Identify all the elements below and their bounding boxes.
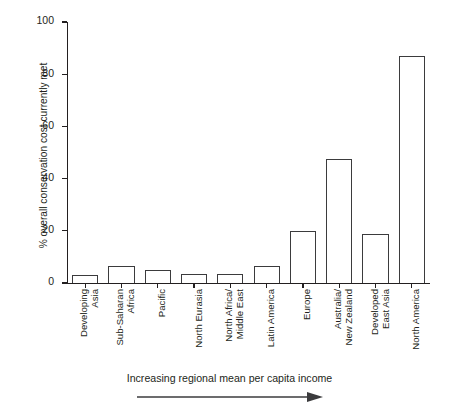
bar bbox=[254, 266, 280, 283]
x-axis-tick bbox=[302, 283, 303, 288]
x-axis-category-label: Australia/New Zealand bbox=[321, 289, 357, 371]
y-axis-tick: 100 bbox=[62, 21, 67, 22]
x-axis-category-label: DevelopedEast Asia bbox=[357, 289, 393, 371]
x-axis-category-line: North America bbox=[411, 289, 422, 369]
bar bbox=[362, 234, 388, 283]
x-axis-tick bbox=[85, 283, 86, 288]
x-axis-category-label: Europe bbox=[285, 289, 321, 371]
arrow-right-icon bbox=[135, 390, 325, 404]
y-axis-tick-label: 20 bbox=[42, 223, 54, 235]
bar bbox=[145, 270, 171, 283]
x-axis-category-label: North America bbox=[394, 289, 430, 371]
x-axis-category-line: North Eurasia bbox=[194, 289, 205, 369]
x-axis-category-label-text: North Africa/Middle East bbox=[224, 289, 245, 369]
x-axis-category-label-text: Australia/New Zealand bbox=[333, 289, 354, 369]
bar bbox=[290, 231, 316, 283]
x-axis-category-label-text: DevelopedEast Asia bbox=[370, 289, 391, 369]
x-axis-category-line: Africa bbox=[126, 289, 137, 369]
bar bbox=[326, 159, 352, 283]
x-axis-category-label-text: North Eurasia bbox=[194, 289, 205, 369]
bar bbox=[72, 275, 98, 283]
bar bbox=[217, 274, 243, 283]
y-axis-line bbox=[67, 22, 68, 284]
x-axis-tick bbox=[157, 283, 158, 288]
y-axis-tick: 20 bbox=[62, 230, 67, 231]
x-axis-category-label: Sub-SaharanAfrica bbox=[103, 289, 139, 371]
x-axis-category-label: DevelopingAsia bbox=[67, 289, 103, 371]
y-axis-tick: 0 bbox=[62, 282, 67, 283]
x-axis-category-line: New Zealand bbox=[344, 289, 355, 369]
y-axis-tick-label: 100 bbox=[36, 14, 54, 26]
y-axis-tick: 80 bbox=[62, 74, 67, 75]
x-axis-category-line: Europe bbox=[302, 289, 313, 369]
x-axis-category-labels: DevelopingAsiaSub-SaharanAfricaPacificNo… bbox=[67, 289, 430, 371]
x-axis-category-label-text: North America bbox=[411, 289, 422, 369]
x-axis-tick bbox=[230, 283, 231, 288]
x-axis-tick bbox=[193, 283, 194, 288]
bar bbox=[181, 274, 207, 283]
x-axis-category-line: Developed bbox=[370, 289, 381, 369]
x-axis-tick bbox=[411, 283, 412, 288]
x-axis-category-label: North Eurasia bbox=[176, 289, 212, 371]
x-axis-category-line: Asia bbox=[90, 289, 101, 369]
bar bbox=[399, 56, 425, 283]
x-axis-category-label: North Africa/Middle East bbox=[212, 289, 248, 371]
x-axis-category-line: Middle East bbox=[235, 289, 246, 369]
x-axis-tick bbox=[375, 283, 376, 288]
bar-chart-figure: % overall conservation cost currently me… bbox=[0, 0, 459, 416]
y-axis-tick-label: 80 bbox=[42, 67, 54, 79]
y-axis-tick-label: 60 bbox=[42, 119, 54, 131]
x-axis-category-label-text: Sub-SaharanAfrica bbox=[115, 289, 136, 369]
x-axis-category-label: Latin America bbox=[249, 289, 285, 371]
y-axis-tick: 40 bbox=[62, 178, 67, 179]
x-axis-category-line: East Asia bbox=[380, 289, 391, 369]
x-axis-category-label-text: DevelopingAsia bbox=[79, 289, 100, 369]
x-axis-tick bbox=[339, 283, 340, 288]
y-axis-tick: 60 bbox=[62, 126, 67, 127]
increasing-income-arrow-wrap bbox=[0, 388, 459, 406]
x-axis-category-label-text: Pacific bbox=[157, 289, 168, 369]
x-axis-caption: Increasing regional mean per capita inco… bbox=[0, 372, 459, 384]
x-axis-category-line: Pacific bbox=[157, 289, 168, 369]
x-axis-category-line: Latin America bbox=[266, 289, 277, 369]
x-axis-category-label-text: Latin America bbox=[266, 289, 277, 369]
bar bbox=[108, 266, 134, 283]
y-axis-tick-label: 40 bbox=[42, 171, 54, 183]
x-axis-category-label-text: Europe bbox=[302, 289, 313, 369]
x-axis-tick bbox=[266, 283, 267, 288]
plot-area: 020406080100 bbox=[67, 22, 430, 283]
y-axis-tick-label: 0 bbox=[48, 275, 54, 287]
x-axis-category-label: Pacific bbox=[140, 289, 176, 371]
x-axis-tick bbox=[121, 283, 122, 288]
